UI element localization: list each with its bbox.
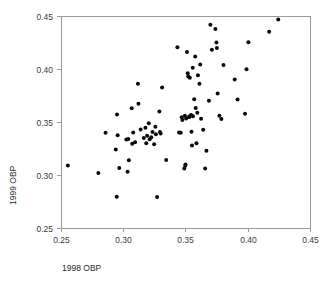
data-point bbox=[199, 117, 203, 121]
data-point bbox=[203, 166, 207, 170]
y-tick-label: 0.30 bbox=[36, 171, 53, 181]
data-point bbox=[195, 111, 199, 115]
data-point bbox=[144, 141, 148, 145]
data-point bbox=[147, 121, 151, 125]
data-point bbox=[192, 97, 196, 101]
data-point bbox=[179, 131, 183, 135]
data-point bbox=[66, 163, 70, 167]
data-point bbox=[145, 134, 149, 138]
x-tick-label: 0.45 bbox=[302, 235, 319, 245]
data-point bbox=[193, 54, 197, 58]
data-point bbox=[116, 133, 120, 137]
data-point bbox=[245, 67, 249, 71]
x-tick-label: 0.40 bbox=[240, 235, 257, 245]
data-point bbox=[164, 158, 168, 162]
scatter-plot-figure: 0.250.300.350.400.450.250.300.350.400.45… bbox=[0, 0, 330, 294]
data-point bbox=[180, 118, 184, 122]
data-point bbox=[117, 166, 121, 170]
x-tick-label: 0.25 bbox=[53, 235, 70, 245]
data-point bbox=[188, 76, 192, 80]
data-point bbox=[216, 92, 220, 96]
data-point bbox=[126, 137, 130, 141]
data-point bbox=[114, 148, 118, 152]
data-point bbox=[139, 127, 143, 131]
data-point bbox=[194, 141, 198, 145]
data-point bbox=[153, 125, 157, 129]
data-point bbox=[149, 135, 153, 139]
data-point bbox=[185, 50, 189, 54]
data-point bbox=[243, 112, 247, 116]
data-point bbox=[136, 102, 140, 106]
data-point bbox=[155, 195, 159, 199]
data-point bbox=[152, 142, 156, 146]
data-point bbox=[154, 132, 158, 136]
data-point bbox=[219, 117, 223, 121]
x-axis-title: 1998 OBP bbox=[62, 263, 102, 273]
data-point bbox=[160, 86, 164, 90]
figure-background bbox=[0, 0, 330, 294]
data-point bbox=[215, 46, 219, 50]
data-point bbox=[115, 195, 119, 199]
data-point bbox=[196, 73, 200, 77]
data-point bbox=[104, 131, 108, 135]
data-point bbox=[233, 77, 237, 81]
data-point bbox=[213, 27, 217, 31]
x-tick-label: 0.35 bbox=[177, 235, 194, 245]
data-point bbox=[130, 106, 134, 110]
data-point bbox=[204, 149, 208, 153]
data-point bbox=[96, 171, 100, 175]
data-point bbox=[214, 41, 218, 45]
data-point bbox=[221, 63, 225, 67]
data-point bbox=[210, 48, 214, 52]
data-point bbox=[190, 144, 194, 148]
plot-canvas: 0.250.300.350.400.450.250.300.350.400.45… bbox=[0, 0, 330, 294]
data-point bbox=[267, 30, 271, 34]
data-point bbox=[133, 140, 137, 144]
data-point bbox=[276, 17, 280, 21]
data-point bbox=[175, 45, 179, 49]
data-point bbox=[191, 66, 195, 70]
data-point bbox=[184, 163, 188, 167]
data-point bbox=[157, 109, 161, 113]
data-point bbox=[207, 99, 211, 103]
data-point bbox=[197, 82, 201, 86]
data-point bbox=[136, 82, 140, 86]
data-point bbox=[208, 23, 212, 27]
data-point bbox=[159, 131, 163, 135]
data-point bbox=[142, 136, 146, 140]
data-point bbox=[127, 158, 131, 162]
y-tick-label: 0.35 bbox=[36, 118, 53, 128]
y-axis-title: 1999 OBP bbox=[8, 165, 18, 205]
data-point bbox=[236, 98, 240, 102]
data-point bbox=[194, 106, 198, 110]
data-point bbox=[191, 114, 195, 118]
data-point bbox=[143, 126, 147, 130]
data-point bbox=[115, 113, 119, 117]
data-point bbox=[131, 131, 135, 135]
y-tick-label: 0.25 bbox=[36, 224, 53, 234]
data-point bbox=[189, 130, 193, 134]
data-point bbox=[151, 130, 155, 134]
data-point bbox=[201, 128, 205, 132]
x-tick-label: 0.30 bbox=[115, 235, 132, 245]
y-tick-label: 0.45 bbox=[36, 12, 53, 22]
data-point bbox=[126, 170, 130, 174]
data-point bbox=[246, 40, 250, 44]
data-point bbox=[198, 63, 202, 67]
y-tick-label: 0.40 bbox=[36, 65, 53, 75]
